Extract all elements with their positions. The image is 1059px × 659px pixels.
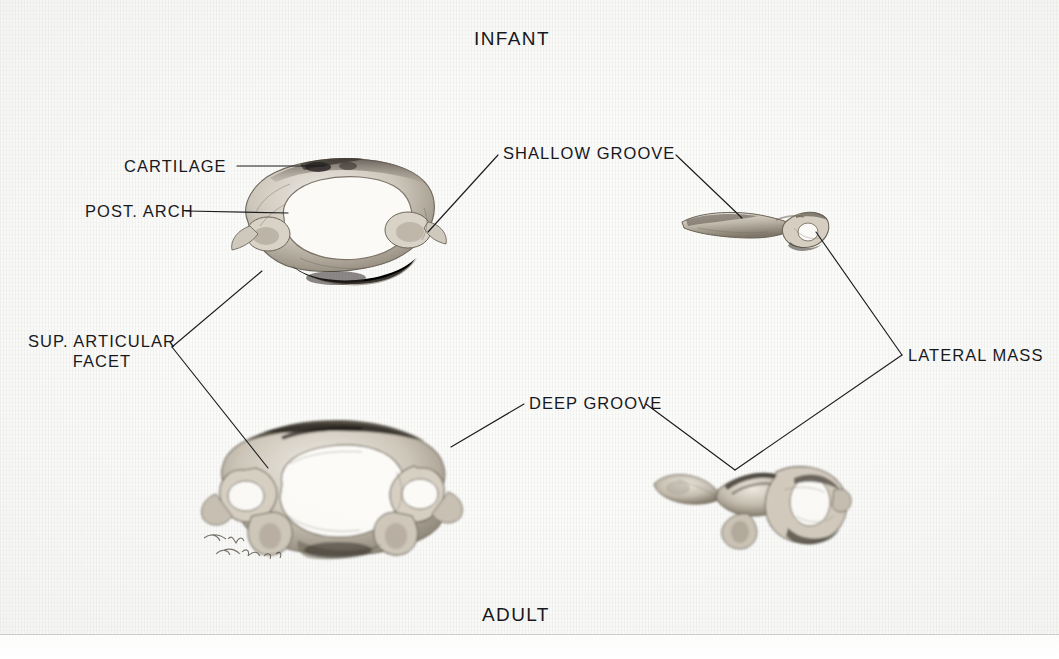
scan-edge-margin — [0, 635, 1059, 659]
label-lateral-mass: LATERAL MASS — [908, 345, 1043, 365]
label-deep-groove: DEEP GROOVE — [529, 393, 662, 413]
label-post-arch: POST. ARCH — [85, 201, 194, 221]
illustration-plate: INFANT ADULT CARTILAGE POST. ARCH SUP. A… — [0, 0, 1059, 659]
label-sup-articular-facet-line2: FACET — [28, 351, 176, 371]
leader-lines-layer — [0, 0, 1059, 659]
caption-adult: ADULT — [482, 604, 550, 626]
specimen-infant-superior-view — [196, 138, 456, 298]
specimen-adult-superior-view — [186, 398, 476, 578]
specimen-infant-lateral-view — [676, 196, 836, 276]
label-sup-articular-facet: SUP. ARTICULAR FACET — [28, 331, 176, 371]
caption-infant: INFANT — [474, 28, 550, 50]
paper-texture — [0, 0, 1059, 659]
page-vignette — [0, 0, 1059, 659]
label-sup-articular-facet-line1: SUP. ARTICULAR — [28, 331, 176, 351]
specimen-adult-lateral-view — [648, 444, 858, 554]
label-shallow-groove: SHALLOW GROOVE — [503, 143, 675, 163]
label-cartilage: CARTILAGE — [124, 156, 227, 176]
